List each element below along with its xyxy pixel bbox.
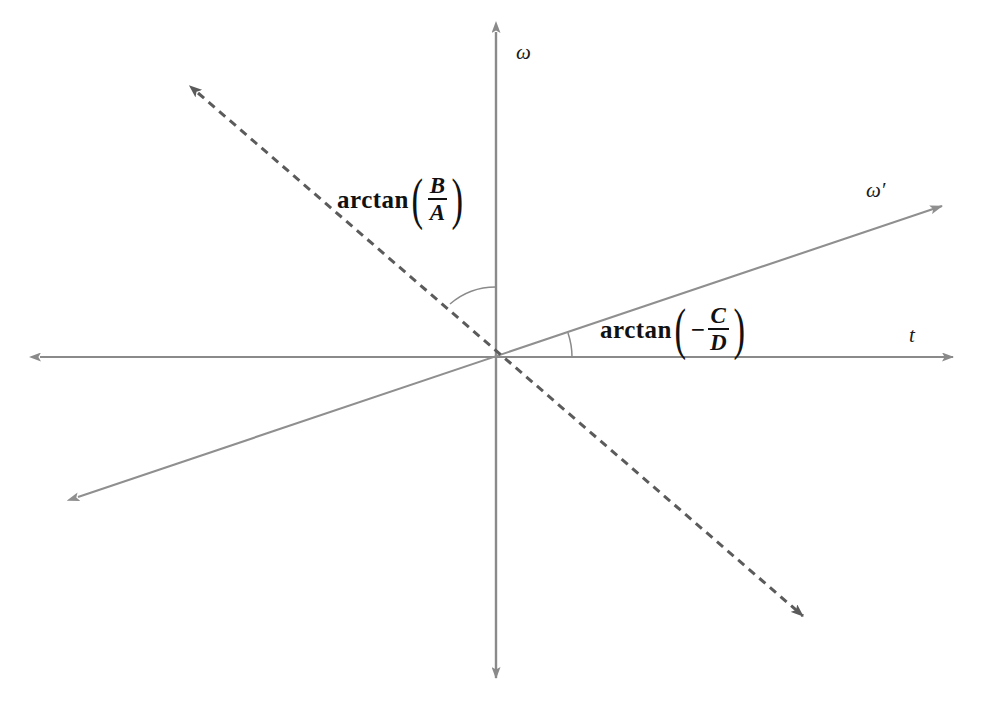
fraction-denominator-d: D [708,330,729,354]
fraction-b-over-a: B A [426,174,449,225]
omega-prime-label: ω′ [866,180,885,201]
math-diagram-canvas: ω t ω′ arctan ( B A ) arctan ( − C D ) [0,0,994,708]
arctan-minus-c-over-d-label: arctan ( − C D ) [600,304,747,355]
arctan-function-name-1: arctan [337,187,409,212]
fraction-denominator-a: A [428,200,447,224]
omega-prime-line [78,206,942,497]
fraction-numerator-b: B [428,174,447,198]
right-paren-1: ) [452,182,464,217]
right-paren-2: ) [733,312,745,347]
t-axis-label: t [909,325,915,346]
left-paren-1: ( [412,182,424,217]
diagram-vector-layer [0,0,994,708]
arctan-b-over-a-label: arctan ( B A ) [337,174,466,225]
omega-axis-label: ω [516,42,531,63]
minus-sign: − [689,317,706,342]
arctan-function-name-2: arctan [600,317,672,342]
arc-arctan-b-over-a [450,287,496,304]
arc-arctan-minus-c-over-d [568,333,572,357]
left-paren-2: ( [675,312,687,347]
negated-fraction-c-over-d: − C D [689,304,731,355]
fraction-numerator-c: C [709,304,728,328]
